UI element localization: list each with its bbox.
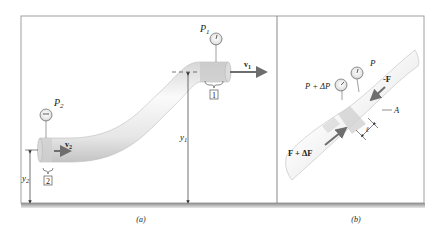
- label-neg-f: -F: [383, 74, 391, 84]
- label-section-2: 2: [46, 177, 50, 186]
- label-length: ℓ: [365, 126, 369, 134]
- pipe-inlet-end: [38, 138, 43, 162]
- label-area-a: A: [393, 105, 400, 115]
- caption-a: (a): [136, 215, 146, 224]
- section-1-band: [200, 62, 228, 82]
- caption-b: (b): [351, 215, 361, 224]
- label-section-1: 1: [212, 91, 216, 100]
- frame-shadow: [21, 203, 425, 208]
- fluid-flow-diagram: P1 v1 1 P2 v2 2 y1 y2 (a): [0, 0, 441, 238]
- label-p-plus-delta-p: P + ΔP: [304, 81, 330, 91]
- label-f-plus-delta-f: F + ΔF: [288, 148, 313, 158]
- pressure-gauge-p2-icon: [40, 109, 52, 121]
- label-p: P: [369, 58, 376, 68]
